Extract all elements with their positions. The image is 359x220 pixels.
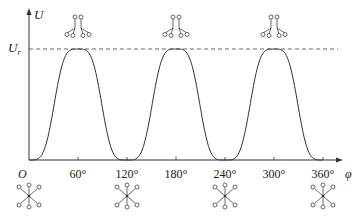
x-tick-label: 180°	[165, 167, 188, 181]
atom	[115, 185, 119, 189]
bond	[21, 196, 29, 203]
x-tick-label: 240°	[214, 167, 237, 181]
energy-curve	[29, 49, 323, 160]
atom	[321, 183, 325, 187]
atom	[233, 203, 237, 207]
atom	[283, 33, 287, 37]
atom	[213, 203, 217, 207]
central-atom	[322, 195, 325, 198]
y-axis-label: U	[34, 7, 45, 22]
atom	[81, 34, 85, 38]
atom	[311, 185, 315, 189]
bond	[127, 196, 135, 203]
eclipsed-conformations	[65, 15, 287, 38]
atom	[331, 185, 335, 189]
atom	[261, 33, 265, 37]
staggered-molecule-icon	[115, 183, 139, 209]
bond	[315, 189, 323, 196]
atom	[87, 33, 91, 37]
atom	[269, 15, 273, 19]
atom	[79, 15, 83, 19]
bond	[29, 196, 37, 203]
atom	[233, 185, 237, 189]
bond	[119, 196, 127, 203]
atom	[135, 185, 139, 189]
staggered-molecule-icon	[213, 183, 237, 209]
atom	[125, 205, 129, 209]
central-atom	[224, 195, 227, 198]
atom	[27, 183, 31, 187]
atom	[185, 33, 189, 37]
atom	[213, 185, 217, 189]
staggered-molecule-icon	[17, 183, 41, 209]
atom	[65, 33, 69, 37]
x-ticks: 60°120°180°240°300°360°	[70, 157, 335, 181]
bond	[119, 189, 127, 196]
central-atom	[126, 195, 129, 198]
atom	[311, 203, 315, 207]
bond	[29, 189, 37, 196]
bond	[225, 196, 233, 203]
atom	[179, 34, 183, 38]
bond	[225, 189, 233, 196]
atom	[331, 203, 335, 207]
atom	[37, 185, 41, 189]
x-tick-label: 360°	[312, 167, 335, 181]
bond	[127, 189, 135, 196]
atom	[125, 183, 129, 187]
atom	[17, 185, 21, 189]
atom	[135, 203, 139, 207]
eclipsed-molecule-icon	[163, 15, 189, 38]
x-axis-arrow	[336, 158, 343, 163]
atom	[27, 205, 31, 209]
origin-label: O	[18, 167, 27, 181]
atom	[275, 15, 279, 19]
torsion-energy-diagram: U φ O Ur 60°120°180°240°300°360°	[0, 0, 359, 220]
x-axis-label: φ	[345, 167, 352, 181]
atom	[71, 34, 75, 38]
bond	[217, 196, 225, 203]
atom	[223, 205, 227, 209]
atom	[73, 15, 77, 19]
atom	[177, 15, 181, 19]
atom	[277, 34, 281, 38]
atom	[223, 183, 227, 187]
atom	[115, 203, 119, 207]
atom	[169, 34, 173, 38]
staggered-molecule-icon	[311, 183, 335, 209]
atom	[37, 203, 41, 207]
atom	[267, 34, 271, 38]
atom	[321, 205, 325, 209]
x-tick-label: 120°	[116, 167, 139, 181]
atom	[163, 33, 167, 37]
barrier-label: Ur	[8, 40, 21, 57]
atom	[17, 203, 21, 207]
bond	[323, 196, 331, 203]
eclipsed-molecule-icon	[261, 15, 287, 38]
y-axis-arrow	[27, 8, 32, 15]
x-tick-label: 300°	[263, 167, 286, 181]
atom	[171, 15, 175, 19]
central-atom	[28, 195, 31, 198]
bond	[323, 189, 331, 196]
staggered-conformations	[17, 183, 335, 209]
x-tick-label: 60°	[70, 167, 87, 181]
bond	[21, 189, 29, 196]
eclipsed-molecule-icon	[65, 15, 91, 38]
bond	[217, 189, 225, 196]
bond	[315, 196, 323, 203]
